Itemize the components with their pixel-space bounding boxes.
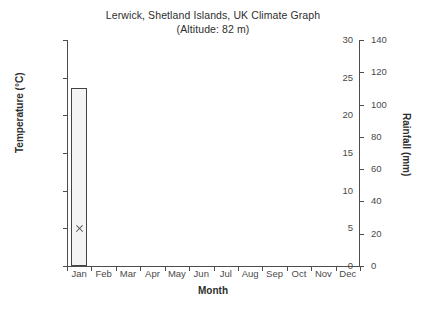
x-axis-title: Month [0,285,426,296]
y-axis-right-tick [360,72,364,73]
x-axis-month-label-sep: Sep [262,268,286,279]
rainfall-bar-jan [71,88,87,266]
y-axis-left-tick-label: 25 [342,72,353,83]
x-axis-month-label-jan: Jan [67,268,91,279]
y-axis-right-tick [360,201,364,202]
temperature-marker-jan [75,224,84,233]
x-axis-month-label-oct: Oct [287,268,311,279]
y-axis-right-tick [360,169,364,170]
y-axis-left-tick [63,153,67,154]
x-axis-month-label-mar: Mar [116,268,140,279]
y-axis-right-tick-label: 60 [371,163,382,174]
y-axis-left-tick [63,78,67,79]
x-axis-month-label-jul: Jul [214,268,238,279]
x-axis-month-label-nov: Nov [311,268,335,279]
y-axis-left-line [67,40,68,267]
y-axis-left-tick-label: 20 [342,109,353,120]
plot-area [67,40,360,266]
y-axis-left-tick [63,228,67,229]
y-axis-left-title: Temperature (°C) [14,73,25,154]
y-axis-right-tick [360,234,364,235]
y-axis-right-tick [360,105,364,106]
y-axis-right-tick [360,137,364,138]
x-axis-month-label-feb: Feb [91,268,115,279]
y-axis-right-tick-label: 20 [371,228,382,239]
y-axis-right-tick [360,40,364,41]
x-axis-tick [360,267,361,271]
y-axis-right-tick-label: 80 [371,131,382,142]
y-axis-left-tick [63,191,67,192]
y-axis-left-tick-label: 30 [342,34,353,45]
y-axis-right-title: Rainfall (mm) [401,113,412,176]
chart-title: Lerwick, Shetland Islands, UK Climate Gr… [0,8,426,22]
climate-graph: Lerwick, Shetland Islands, UK Climate Gr… [0,0,426,309]
x-axis-month-label-jun: Jun [189,268,213,279]
chart-title-block: Lerwick, Shetland Islands, UK Climate Gr… [0,8,426,36]
y-axis-left-tick-label: 5 [348,222,353,233]
x-axis-month-label-apr: Apr [140,268,164,279]
x-axis-month-label-dec: Dec [336,268,360,279]
chart-subtitle: (Altitude: 82 m) [0,22,426,36]
y-axis-right-tick-label: 140 [371,34,387,45]
y-axis-right-tick-label: 40 [371,195,382,206]
x-axis-month-label-may: May [165,268,189,279]
x-axis-month-label-aug: Aug [238,268,262,279]
y-axis-right-tick-label: 0 [371,260,376,271]
y-axis-right-tick-label: 100 [371,99,387,110]
y-axis-left-tick [63,115,67,116]
y-axis-right-tick-label: 120 [371,66,387,77]
y-axis-left-tick-label: 10 [342,185,353,196]
y-axis-left-tick-label: 15 [342,147,353,158]
y-axis-left-tick [63,40,67,41]
